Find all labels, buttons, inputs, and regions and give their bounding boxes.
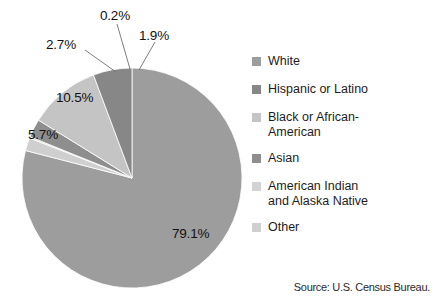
legend-item[interactable]: Other	[252, 220, 432, 235]
legend-item[interactable]: Hispanic or Latino	[252, 82, 432, 97]
chart-legend: WhiteHispanic or LatinoBlack or African-…	[252, 54, 432, 248]
source-note: Source: U.S. Census Bureau.	[294, 281, 430, 293]
slice-value-label-american-indian: 0.2%	[100, 8, 130, 23]
leader-line-other	[139, 42, 155, 70]
legend-swatch-icon	[252, 57, 261, 66]
legend-item[interactable]: Asian	[252, 151, 432, 166]
slice-value-label-white: 79.1%	[172, 226, 209, 241]
legend-swatch-icon	[252, 113, 261, 122]
legend-item-label: American Indian and Alaska Native	[268, 179, 368, 209]
slice-value-label-other: 1.9%	[139, 28, 169, 43]
legend-item[interactable]: American Indian and Alaska Native	[252, 179, 432, 209]
legend-item[interactable]: Black or African- American	[252, 110, 432, 140]
slice-value-label-hispanic-or-latino: 5.7%	[28, 127, 58, 142]
legend-item-label: Hispanic or Latino	[268, 82, 368, 97]
legend-swatch-icon	[252, 85, 261, 94]
slice-value-label-black-or-african-american: 10.5%	[56, 90, 93, 105]
legend-item-label: Other	[268, 220, 299, 235]
legend-swatch-icon	[252, 182, 261, 191]
pie-chart-figure: 79.1% 10.5% 5.7% 0.2% 2.7% 1.9% WhiteHis…	[0, 0, 438, 305]
legend-swatch-icon	[252, 154, 261, 163]
leader-line-american-indian	[117, 24, 130, 69]
legend-item-label: White	[268, 54, 300, 69]
slice-value-label-asian: 2.7%	[46, 37, 76, 52]
legend-item[interactable]: White	[252, 54, 432, 69]
legend-swatch-icon	[252, 223, 261, 232]
leader-line-asian	[85, 50, 116, 72]
legend-item-label: Black or African- American	[268, 110, 359, 140]
pie-slice-group	[22, 68, 242, 288]
legend-item-label: Asian	[268, 151, 299, 166]
